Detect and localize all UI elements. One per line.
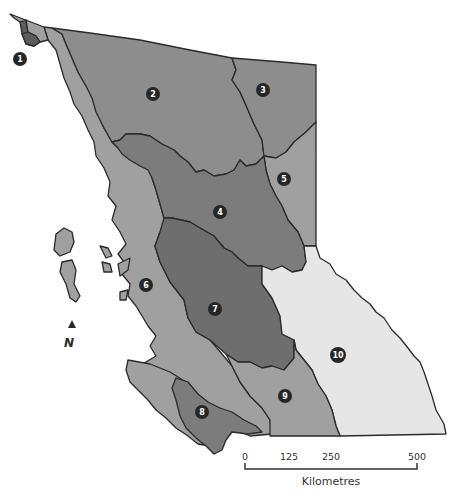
marker-7-label: 7 <box>212 305 218 314</box>
marker-2-label: 2 <box>150 90 156 99</box>
island-haida-north <box>54 228 74 256</box>
marker-8[interactable]: 8 <box>195 405 209 419</box>
scale-unit-label: Kilometres <box>302 475 361 488</box>
marker-5-label: 5 <box>281 175 287 184</box>
island-small-2 <box>102 262 112 272</box>
north-label: N <box>64 336 74 350</box>
scale-bar-line <box>245 463 417 469</box>
marker-1-label: 1 <box>17 55 23 64</box>
marker-8-label: 8 <box>199 408 205 417</box>
scale-tick-0: 0 <box>242 451 248 462</box>
marker-10-label: 10 <box>332 351 344 360</box>
scale-bar: 0 125 250 500 Kilometres <box>242 451 426 488</box>
scale-tick-250: 250 <box>322 451 340 462</box>
north-arrow-icon <box>68 320 76 328</box>
island-small-1 <box>100 246 112 258</box>
marker-5[interactable]: 5 <box>277 172 291 186</box>
marker-6[interactable]: 6 <box>139 278 153 292</box>
marker-6-label: 6 <box>143 281 149 290</box>
marker-2[interactable]: 2 <box>146 87 160 101</box>
marker-1[interactable]: 1 <box>13 52 27 66</box>
marker-7[interactable]: 7 <box>208 302 222 316</box>
marker-4-label: 4 <box>217 208 223 217</box>
marker-9[interactable]: 9 <box>278 389 292 403</box>
marker-4[interactable]: 4 <box>213 205 227 219</box>
marker-10[interactable]: 10 <box>330 347 346 363</box>
scale-tick-125: 125 <box>280 451 298 462</box>
scale-tick-500: 500 <box>408 451 426 462</box>
island-small-4 <box>120 290 128 300</box>
bc-regions-map: 1 2 3 4 5 6 7 8 9 10 N 0 <box>0 0 459 501</box>
island-haida-south <box>60 260 80 302</box>
marker-3-label: 3 <box>260 86 266 95</box>
marker-9-label: 9 <box>282 392 288 401</box>
marker-3[interactable]: 3 <box>256 83 270 97</box>
north-arrow: N <box>64 320 76 350</box>
